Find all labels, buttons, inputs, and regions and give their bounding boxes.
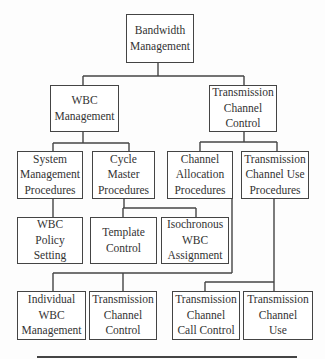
node-label: Use [269, 323, 287, 339]
node-label: Management [130, 39, 190, 55]
node-label: Management [20, 167, 80, 183]
node-label: Channel [104, 308, 142, 324]
node-label: Assignment [168, 248, 223, 264]
node-label: Management [54, 109, 114, 125]
node-label: Individual [28, 292, 75, 308]
node-label: Control [105, 323, 140, 339]
node-label: Transmission [247, 292, 309, 308]
node-label: Template [102, 225, 145, 241]
node-bandwidth-management: Bandwidth Management [126, 14, 194, 63]
node-label: Transmission [175, 292, 237, 308]
node-label: Channel [224, 101, 262, 117]
node-label: Master [108, 167, 140, 183]
node-label: Procedures [24, 183, 75, 199]
node-transmission-channel-call-control: Transmission Channel Call Control [172, 291, 240, 340]
node-template-control: Template Control [90, 217, 157, 264]
node-transmission-channel-use: Transmission Channel Use [243, 291, 313, 340]
node-cycle-master-procedures: Cycle Master Procedures [92, 151, 155, 199]
node-label: WBC [182, 233, 208, 249]
node-label: Call Control [177, 323, 234, 339]
bandwidth-management-diagram: Bandwidth Management WBC Management Tran… [0, 0, 325, 359]
node-label: Control [225, 116, 260, 132]
node-isochronous-wbc-assignment: Isochronous WBC Assignment [161, 217, 229, 264]
node-transmission-channel-use-procedures: Transmission Channel Use Procedures [241, 151, 309, 199]
node-label: Cycle [110, 152, 137, 168]
node-label: Bandwidth [135, 23, 185, 39]
node-wbc-policy-setting: WBC Policy Setting [17, 217, 83, 264]
node-transmission-channel-control-leaf: Transmission Channel Control [89, 291, 157, 340]
node-label: Control [106, 241, 141, 257]
node-label: WBC [71, 93, 97, 109]
node-label: Management [21, 323, 81, 339]
node-system-management-procedures: System Management Procedures [17, 151, 83, 199]
node-label: Transmission [92, 292, 154, 308]
node-label: Channel Use [245, 167, 304, 183]
node-label: Procedures [174, 183, 225, 199]
node-label: Channel [259, 308, 297, 324]
node-label: WBC [37, 217, 63, 233]
node-wbc-management: WBC Management [50, 85, 119, 132]
node-label: Transmission [212, 85, 274, 101]
node-individual-wbc-management: Individual WBC Management [17, 291, 86, 340]
node-label: System [33, 152, 67, 168]
bottom-rule-divider [37, 356, 297, 358]
node-label: WBC [38, 308, 64, 324]
node-channel-allocation-procedures: Channel Allocation Procedures [167, 151, 233, 199]
node-label: Procedures [249, 183, 300, 199]
node-label: Allocation [176, 167, 225, 183]
node-label: Channel [181, 152, 219, 168]
node-transmission-channel-control: Transmission Channel Control [209, 85, 277, 132]
node-label: Procedures [98, 183, 149, 199]
node-label: Transmission [244, 152, 306, 168]
node-label: Channel [187, 308, 225, 324]
node-label: Isochronous [167, 217, 223, 233]
node-label: Setting [34, 248, 67, 264]
node-label: Policy [35, 233, 64, 249]
